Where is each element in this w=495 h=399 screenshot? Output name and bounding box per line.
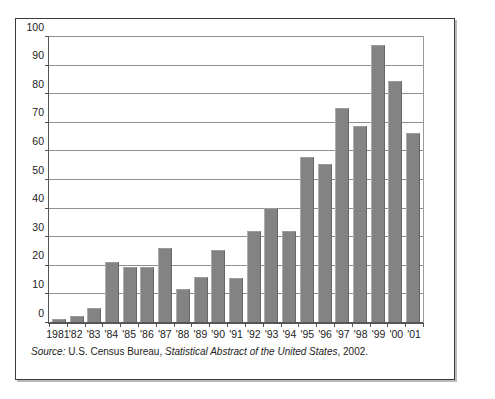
bar-slot <box>209 38 227 322</box>
y-axis-tick-label: 60 <box>32 136 44 147</box>
bar-slot <box>50 38 68 322</box>
bar[interactable] <box>406 133 420 322</box>
y-axis-tick-mark <box>45 179 49 180</box>
x-axis-tick-label: '88 <box>176 329 190 340</box>
gridline <box>49 36 423 37</box>
bar[interactable] <box>70 316 84 322</box>
source-agency: U.S. Census Bureau, <box>68 346 162 357</box>
y-axis-tick-mark <box>45 65 49 66</box>
y-axis-tick-label: 80 <box>32 78 44 89</box>
bar-slot <box>351 38 369 322</box>
y-axis-tick-label: 0 <box>38 307 44 318</box>
x-axis-tick-mark <box>281 323 282 327</box>
bar-slot <box>121 38 139 322</box>
bar-slot <box>280 38 298 322</box>
bar-slot <box>103 38 121 322</box>
y-axis-tick-label: 20 <box>32 250 44 261</box>
bar-slot <box>68 38 86 322</box>
source-publication-title: Statistical Abstract of the United State… <box>165 346 338 357</box>
x-axis-tick-label: '84 <box>104 329 118 340</box>
x-axis-tick-label: '92 <box>247 329 261 340</box>
bar[interactable] <box>123 267 137 322</box>
bar[interactable] <box>335 108 349 322</box>
x-axis-tick-mark <box>334 323 335 327</box>
x-axis-tick-mark <box>263 323 264 327</box>
x-axis-tick-label: '82 <box>69 329 83 340</box>
bar[interactable] <box>282 231 296 322</box>
x-axis-tick-label: '97 <box>336 329 350 340</box>
bar[interactable] <box>194 277 208 322</box>
bar[interactable] <box>105 262 119 322</box>
bar-slot <box>316 38 334 322</box>
x-axis-tick-label: 1981 <box>46 329 69 340</box>
x-axis-tick-mark <box>227 323 228 327</box>
bar[interactable] <box>158 248 172 322</box>
x-axis-tick-label: '86 <box>140 329 154 340</box>
bar[interactable] <box>371 45 385 322</box>
bar-slot <box>245 38 263 322</box>
x-axis-tick-mark <box>423 323 424 327</box>
bar-slot <box>174 38 192 322</box>
bar[interactable] <box>264 208 278 322</box>
bar[interactable] <box>247 231 261 322</box>
y-axis-tick-mark <box>45 150 49 151</box>
x-axis-tick-label: '83 <box>87 329 101 340</box>
x-axis-tick-mark <box>102 323 103 327</box>
x-axis-tick-mark <box>138 323 139 327</box>
x-axis-tick-label: '01 <box>407 329 421 340</box>
bar[interactable] <box>353 126 367 322</box>
x-axis-tick-mark <box>298 323 299 327</box>
x-axis-tick-label: '00 <box>389 329 403 340</box>
y-axis-tick-mark <box>45 265 49 266</box>
y-axis-tick-label: 30 <box>32 221 44 232</box>
x-axis-tick-mark <box>405 323 406 327</box>
y-axis-tick-mark <box>45 93 49 94</box>
bar-slot <box>85 38 103 322</box>
bar[interactable] <box>388 81 402 322</box>
bar-slot <box>263 38 281 322</box>
x-axis-tick-label: '87 <box>158 329 172 340</box>
bar[interactable] <box>87 308 101 322</box>
x-axis-tick-mark <box>245 323 246 327</box>
y-axis-tick-label: 10 <box>32 279 44 290</box>
bar-slot <box>139 38 157 322</box>
bar-slot <box>298 38 316 322</box>
bars-group <box>50 38 422 322</box>
x-axis-tick-mark <box>316 323 317 327</box>
y-axis-tick-mark <box>45 236 49 237</box>
bar-slot <box>369 38 387 322</box>
x-axis-tick-label: '93 <box>265 329 279 340</box>
x-axis-tick-label: '98 <box>354 329 368 340</box>
bar-slot <box>387 38 405 322</box>
bar[interactable] <box>176 289 190 322</box>
bar-slot <box>227 38 245 322</box>
x-axis-tick-label: '95 <box>300 329 314 340</box>
y-axis-tick-label: 90 <box>32 50 44 61</box>
source-prefix: Source: <box>31 346 65 357</box>
y-axis-tick-mark <box>45 36 49 37</box>
source-year: , 2002. <box>337 346 368 357</box>
x-axis-tick-mark <box>49 323 50 327</box>
bar-slot <box>404 38 422 322</box>
bar[interactable] <box>211 250 225 322</box>
bar[interactable] <box>318 164 332 322</box>
x-axis-tick-mark <box>120 323 121 327</box>
bar[interactable] <box>52 319 66 322</box>
x-axis-tick-label: '91 <box>229 329 243 340</box>
gridline <box>49 322 423 323</box>
y-axis-tick-label: 50 <box>32 164 44 175</box>
y-axis-tick-mark <box>45 122 49 123</box>
bar[interactable] <box>300 157 314 322</box>
y-axis-tick-label: 100 <box>26 21 44 32</box>
x-axis-tick-label: '96 <box>318 329 332 340</box>
x-axis-tick-mark <box>67 323 68 327</box>
y-axis-tick-mark <box>45 293 49 294</box>
y-axis-tick-label: 70 <box>32 107 44 118</box>
bar-slot <box>156 38 174 322</box>
x-axis-tick-label: '94 <box>283 329 297 340</box>
bar-slot <box>333 38 351 322</box>
bar[interactable] <box>140 267 154 322</box>
x-axis-tick-mark <box>174 323 175 327</box>
bar[interactable] <box>229 278 243 322</box>
x-axis-tick-label: '89 <box>194 329 208 340</box>
